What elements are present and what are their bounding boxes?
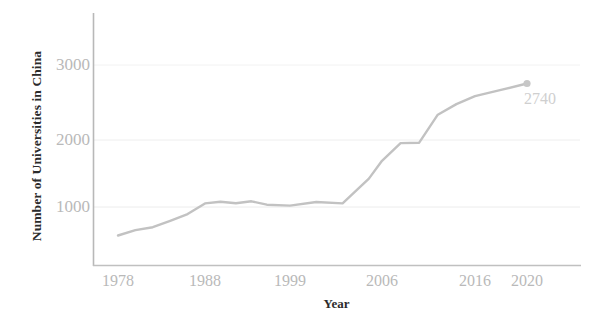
y-axis-title: Number of Universities in China xyxy=(29,31,45,261)
x-tick-label-1988: 1988 xyxy=(189,272,221,290)
y-tick-label-2000: 2000 xyxy=(42,130,90,150)
x-tick-label-2016: 2016 xyxy=(459,272,491,290)
endpoint-data-marker xyxy=(523,80,530,87)
x-tick-label-2006: 2006 xyxy=(366,272,398,290)
x-tick-label-1999: 1999 xyxy=(274,272,306,290)
x-tick-label-1978: 1978 xyxy=(102,272,134,290)
x-axis-title: Year xyxy=(93,296,580,312)
y-tick-label-3000: 3000 xyxy=(42,55,90,75)
line-chart-figure: 3000 2000 1000 1978 1988 1999 2006 2016 … xyxy=(0,0,603,325)
gridlines xyxy=(93,65,580,207)
x-tick-label-2020: 2020 xyxy=(511,272,543,290)
data-series-line xyxy=(118,84,527,236)
y-tick-label-1000: 1000 xyxy=(42,197,90,217)
data-point-value-label: 2740 xyxy=(524,90,556,108)
